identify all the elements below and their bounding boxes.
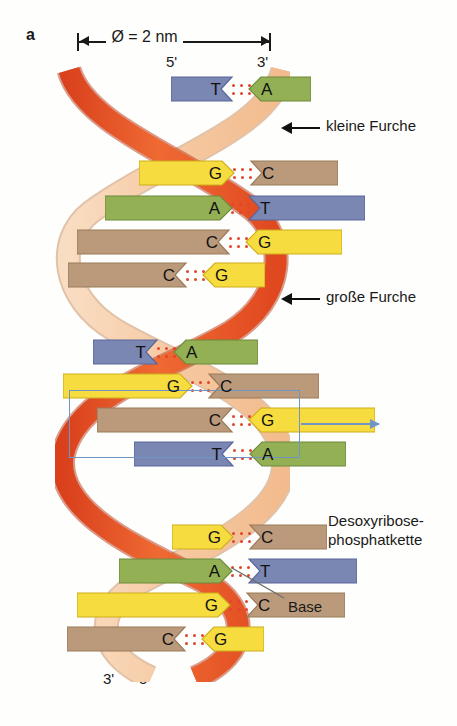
hydrogen-bonds: [225, 229, 251, 255]
base-letter: A: [262, 446, 273, 463]
major-groove-arrow: [292, 298, 320, 300]
dimension-arrowhead-right: [261, 36, 270, 46]
base-pair: C G: [55, 229, 290, 255]
base-c-right: C: [248, 524, 327, 550]
base-t-right: T: [247, 195, 365, 221]
base-c-right: C: [249, 160, 338, 186]
base-g-right: G: [245, 229, 342, 255]
base-a-right: A: [173, 339, 258, 365]
base-g-left: G: [139, 160, 235, 186]
base-g-left: G: [77, 592, 231, 618]
base-t-left: T: [93, 339, 159, 365]
hydrogen-bonds: [228, 76, 254, 102]
backbone-label-line1: Desoxyribose-: [328, 512, 424, 531]
base-letter: C: [162, 631, 174, 648]
base-c-left: C: [68, 262, 188, 288]
base-letter: C: [206, 234, 218, 251]
base-leader-line: [230, 566, 286, 600]
base-pair: T A: [55, 76, 290, 102]
figure-canvas: a Ø = 2 nm 5' 3' 3' 5': [0, 0, 457, 726]
dimension-arrowhead-left: [80, 36, 89, 46]
base-letter: C: [209, 412, 221, 429]
base-letter: G: [214, 631, 227, 648]
base-letter: T: [136, 344, 146, 361]
highlight-callout-arrow: [301, 423, 379, 425]
base-letter: A: [209, 563, 220, 580]
minor-groove-arrow: [292, 127, 320, 129]
base-letter: T: [212, 446, 222, 463]
base-t-right: T: [247, 558, 357, 584]
base-letter: A: [209, 200, 220, 217]
base-letter: C: [262, 165, 274, 182]
hydrogen-bonds: [227, 195, 253, 221]
base-letter: T: [211, 81, 221, 98]
base-letter: G: [205, 597, 218, 614]
base-g-left: G: [172, 524, 234, 550]
base-a-left: A: [105, 195, 233, 221]
base-c-left: C: [67, 626, 187, 652]
hydrogen-bonds: [182, 262, 208, 288]
base-g-right: G: [201, 626, 264, 652]
base-c-left: C: [77, 229, 231, 255]
base-a-right: A: [248, 76, 311, 102]
base-letter: C: [220, 378, 232, 395]
base-letter: C: [163, 267, 175, 284]
base-pair: G C: [55, 160, 290, 186]
base-letter: C: [261, 529, 273, 546]
base-pair: C G: [55, 626, 290, 652]
hydrogen-bonds: [153, 339, 179, 365]
backbone-label: Desoxyribose- phosphatkette: [328, 512, 424, 550]
panel-letter: a: [26, 26, 35, 44]
backbone-label-line2: phosphatkette: [328, 531, 424, 550]
base-pair: G C: [55, 524, 290, 550]
base-letter: T: [260, 563, 270, 580]
base-letter: G: [209, 165, 222, 182]
base-label: Base: [288, 598, 322, 615]
hydrogen-bonds: [181, 626, 207, 652]
base-t-left: T: [171, 76, 234, 102]
base-letter: C: [258, 597, 270, 614]
base-letter: A: [261, 81, 272, 98]
hydrogen-bonds: [229, 160, 255, 186]
base-pair: A T: [55, 195, 290, 221]
major-groove-label: große Furche: [326, 288, 416, 307]
base-letter: G: [215, 267, 228, 284]
base-letter: G: [208, 529, 221, 546]
hydrogen-bonds: [228, 524, 254, 550]
dimension-cap-left: [77, 33, 79, 51]
dimension-line: [78, 41, 270, 43]
base-letter: A: [186, 344, 197, 361]
base-letter: G: [167, 378, 180, 395]
dimension-label-wrap: Ø = 2 nm: [0, 28, 457, 46]
base-a-left: A: [119, 558, 233, 584]
minor-groove-label: kleine Furche: [326, 117, 416, 136]
base-letter: G: [261, 412, 274, 429]
base-pair: T A: [55, 339, 290, 365]
base-g-right: G: [248, 407, 375, 433]
base-letter: G: [258, 234, 271, 251]
base-letter: T: [260, 200, 270, 217]
base-pair: C G: [55, 262, 290, 288]
base-g-right: G: [202, 262, 265, 288]
